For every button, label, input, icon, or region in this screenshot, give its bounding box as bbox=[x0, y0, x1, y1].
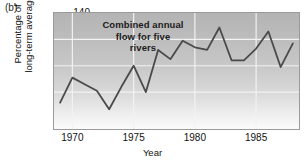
x-axis-label: Year bbox=[0, 147, 305, 158]
x-tick-label: 1985 bbox=[234, 133, 278, 143]
x-tick-label: 1975 bbox=[112, 133, 156, 143]
x-tick-label: 1980 bbox=[173, 133, 217, 143]
figure-panel-b: (b) Percentage of long-term average 6080… bbox=[0, 0, 305, 160]
x-tick-labels: 1970197519801985 bbox=[0, 0, 305, 160]
x-tick-label: 1970 bbox=[50, 133, 94, 143]
